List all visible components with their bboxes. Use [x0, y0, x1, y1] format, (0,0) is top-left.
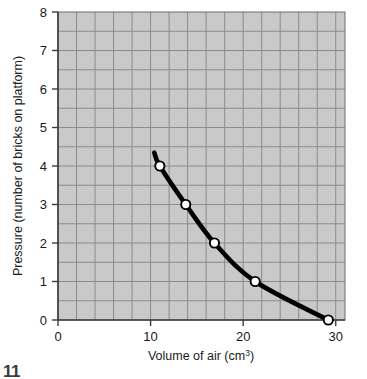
x-axis-title: Volume of air (cm3)	[148, 348, 254, 363]
x-tick-label: 0	[54, 329, 61, 344]
data-point-marker	[210, 238, 219, 247]
data-point-marker	[251, 277, 260, 286]
y-tick-label: 2	[40, 236, 47, 251]
x-axis-ticks: 0102030	[54, 320, 343, 344]
y-tick-label: 1	[40, 274, 47, 289]
y-tick-label: 6	[40, 82, 47, 97]
x-tick-label: 30	[329, 329, 343, 344]
y-tick-label: 3	[40, 197, 47, 212]
y-axis-ticks: 012345678	[40, 5, 58, 328]
y-tick-label: 4	[40, 159, 47, 174]
y-tick-label: 8	[40, 5, 47, 20]
y-tick-label: 7	[40, 43, 47, 58]
data-point-marker	[324, 315, 333, 324]
y-tick-label: 5	[40, 120, 47, 135]
pressure-volume-chart: 012345678 0102030 Volume of air (cm3) Pr…	[0, 0, 367, 379]
chart-figure: 012345678 0102030 Volume of air (cm3) Pr…	[0, 0, 367, 379]
data-point-marker	[181, 200, 190, 209]
data-point-marker	[155, 161, 164, 170]
x-tick-label: 20	[236, 329, 250, 344]
y-axis-title: Pressure (number of bricks on platform)	[11, 56, 25, 276]
page-corner-mark: 11	[3, 362, 20, 379]
x-tick-label: 10	[143, 329, 157, 344]
y-tick-label: 0	[40, 313, 47, 328]
